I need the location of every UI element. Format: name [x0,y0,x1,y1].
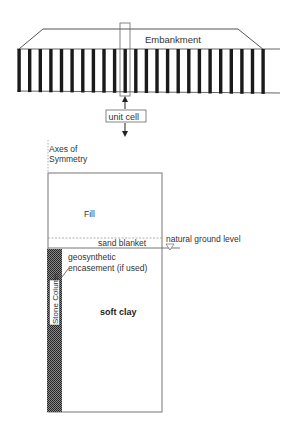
fill-label: Fill [84,209,95,219]
stone-column-strip [28,49,31,92]
stone-column-strip [92,49,95,93]
stone-column-strip [145,49,148,93]
stone-column-strip [70,49,73,92]
embankment-section: Embankment unit cell [17,23,280,134]
stone-column-strip [81,49,84,93]
axis-label-line2: Symmetry [49,154,88,164]
stone-column-strip [251,49,254,94]
stone-column-strip [230,49,233,94]
embankment-label: Embankment [145,34,201,45]
unit-cell-boundary [48,173,162,412]
water-level-triangle-icon [166,244,174,250]
stone-column-strip [39,49,42,92]
stone-column-row [17,49,264,94]
stone-column-strip [102,49,105,93]
embankment-outline [19,29,264,50]
stone-column-strip [124,49,127,93]
soft-clay-label: soft clay [100,307,137,317]
stone-column-strip [198,49,201,93]
stone-column-strip [60,49,63,92]
stone-column-strip [113,49,116,93]
stone-column-strip [261,49,264,94]
stone-column-strip [240,49,243,94]
stone-column-label: Stone Column [51,273,60,324]
sand-blanket-label: sand blanket [98,238,147,248]
stone-column-strip [17,49,20,92]
stone-column-strip [49,49,52,92]
encasement-label-line1: geosynthetic [68,252,116,262]
natural-ground-label: natural ground level [166,234,241,244]
stone-column-strip [166,49,169,93]
stone-column-strip [219,49,222,94]
encasement-label-line2: encasement (if used) [68,263,148,273]
encasement-leader-line [62,269,68,277]
unit-cell-section: Axes of Symmetry Fill sand blanket natur… [47,140,241,412]
stone-column-strip [177,49,180,93]
stone-column-strip [208,49,211,94]
stone-column-strip [155,49,158,93]
stone-column-strip [134,49,137,93]
unit-cell-diagram: Embankment unit cell Axes of Symmetry Fi… [0,0,283,423]
unit-cell-label: unit cell [109,112,140,122]
axis-label-line1: Axes of [49,144,78,154]
stone-column-strip [187,49,190,93]
